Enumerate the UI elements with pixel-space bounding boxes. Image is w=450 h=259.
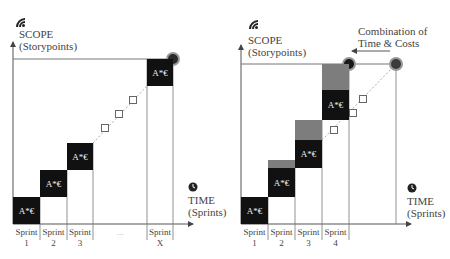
left-placeholder-square <box>115 110 123 118</box>
right-placeholder-square <box>330 126 338 134</box>
right-block-sprint-3: A*€ <box>295 140 322 168</box>
right-placeholder-square <box>359 95 367 103</box>
left-y-axis-title: SCOPE <box>19 28 53 40</box>
right-block-sprint-2: A*€ <box>268 168 295 197</box>
wifi-signal-icon <box>15 17 28 28</box>
right-x-axis-subtitle: (Sprints) <box>407 207 446 219</box>
left-sprint-label-1: Sprint1 <box>13 227 40 249</box>
left-block-sprint-2: A*€ <box>40 170 67 197</box>
left-y-axis-subtitle: (Storypoints) <box>19 40 77 52</box>
left-sprint-label-2: Sprint2 <box>40 227 67 249</box>
right-overrun-sprint-4 <box>322 64 349 90</box>
right-y-axis-title: SCOPE <box>248 34 282 46</box>
left-x-axis-title: TIME <box>188 194 215 206</box>
right-sprint-label-1: Sprint1 <box>241 227 268 249</box>
right-overrun-sprint-3 <box>295 120 322 140</box>
diagram-canvas: SCOPE (Storypoints) TIME (Sprints) A*€ A… <box>0 0 450 259</box>
left-sprint-label-3: Sprint3 <box>67 227 93 249</box>
right-sprint-label-4: Sprint4 <box>322 227 349 249</box>
right-overrun-sprint-2 <box>268 160 295 168</box>
left-block-sprint-x: A*€ <box>147 59 173 86</box>
right-block-sprint-4: A*€ <box>322 90 349 120</box>
annotation-line-1: Combination of <box>358 25 427 37</box>
right-sprint-label-2: Sprint2 <box>268 227 295 249</box>
right-y-axis-subtitle: (Storypoints) <box>248 46 306 58</box>
left-block-sprint-3: A*€ <box>67 143 93 170</box>
left-block-sprint-1: A*€ <box>13 197 40 224</box>
left-placeholder-square <box>129 96 137 104</box>
right-sprint-label-3: Sprint3 <box>295 227 322 249</box>
clock-icon <box>407 183 417 193</box>
right-block-sprint-1: A*€ <box>241 197 268 224</box>
annotation-line-2: Time & Costs <box>358 37 419 49</box>
left-sprint-label-ellipsis: ... <box>93 227 147 238</box>
left-x-axis-subtitle: (Sprints) <box>188 206 227 218</box>
right-placeholder-square <box>349 109 357 117</box>
right-planned-circle <box>390 58 402 70</box>
right-x-axis-title: TIME <box>407 195 434 207</box>
clock-icon <box>188 182 198 192</box>
left-sprint-label-x: SprintX <box>147 227 173 249</box>
wifi-signal-icon <box>248 19 261 30</box>
left-placeholder-square <box>101 124 109 132</box>
